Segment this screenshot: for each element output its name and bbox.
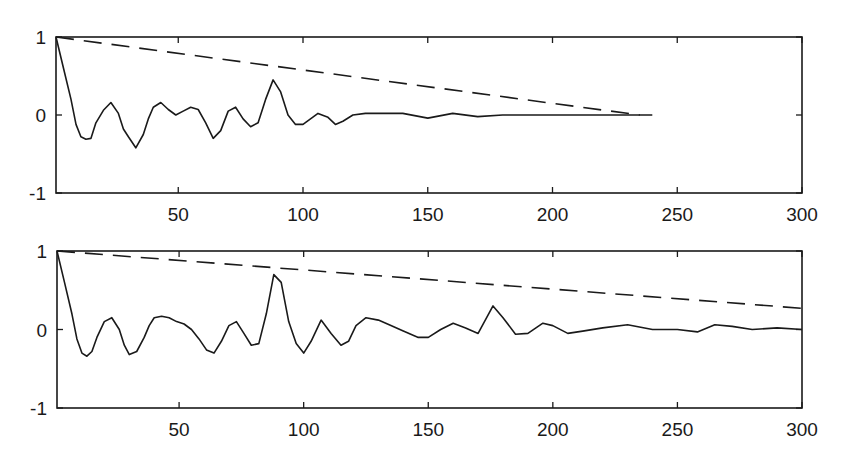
chart-figure: 50100150200250300-10150100150200250300-1… <box>0 0 847 468</box>
x-tick-label: 200 <box>537 419 569 440</box>
x-tick-label: 100 <box>288 419 320 440</box>
y-tick-label: -1 <box>30 398 47 419</box>
x-tick-label: 50 <box>169 419 190 440</box>
top-plot: 50100150200250300-101 <box>29 27 818 225</box>
y-tick-label: -1 <box>29 183 46 204</box>
x-tick-label: 300 <box>786 419 818 440</box>
x-tick-label: 250 <box>661 204 693 225</box>
x-tick-label: 150 <box>412 419 444 440</box>
bottom-plot: 50100150200250300-101 <box>30 241 818 440</box>
x-tick-label: 200 <box>537 204 569 225</box>
x-tick-label: 300 <box>786 204 818 225</box>
axes-box <box>56 37 802 193</box>
x-tick-label: 100 <box>287 204 319 225</box>
y-tick-label: 1 <box>36 241 47 262</box>
autocorrelation-line <box>56 37 652 148</box>
autocorrelation-line <box>57 251 802 356</box>
y-tick-label: 1 <box>35 27 46 48</box>
x-tick-label: 50 <box>168 204 189 225</box>
y-tick-label: 0 <box>35 105 46 126</box>
x-tick-label: 250 <box>662 419 694 440</box>
dashed-bound-line <box>56 37 640 115</box>
y-tick-label: 0 <box>36 320 47 341</box>
dashed-bound-line <box>57 251 802 308</box>
x-tick-label: 150 <box>412 204 444 225</box>
axes-box <box>57 251 802 408</box>
